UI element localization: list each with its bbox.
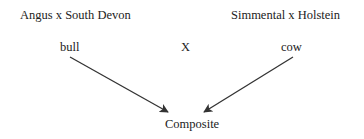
cow-to-composite-arrow-icon bbox=[204, 57, 293, 112]
composite-label: Composite bbox=[165, 117, 219, 131]
bull-to-composite-arrow-icon bbox=[70, 57, 168, 112]
breeding-diagram: Angus x South Devon Simmental x Holstein… bbox=[0, 0, 364, 139]
